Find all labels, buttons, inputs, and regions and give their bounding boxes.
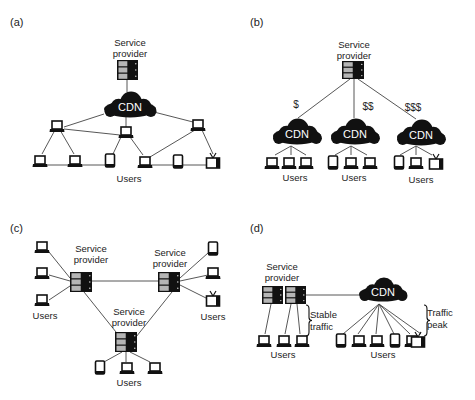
connection-line [180, 285, 208, 299]
tablet-icon [329, 156, 338, 169]
diagram-text: Users [271, 349, 296, 360]
panel-label: (c) [10, 222, 23, 234]
cdn-cloud-icon: CDN [331, 118, 380, 144]
tablet-icon [174, 155, 183, 168]
tablet-icon [106, 154, 115, 167]
diagram-text: provider [74, 254, 108, 265]
connection-line [291, 146, 306, 155]
diagram-text: provider [337, 50, 371, 61]
connection-line [416, 146, 432, 155]
cdn-label: CDN [343, 128, 367, 140]
connection-line [104, 352, 122, 362]
panel-b: CDNCDNCDN(b)Serviceprovider$$$$$$UsersUs… [250, 16, 446, 185]
diagram-text: provider [112, 317, 146, 328]
laptop-icon [35, 242, 50, 253]
laptop-icon [35, 268, 50, 279]
laptop-icon [68, 156, 83, 167]
laptop-icon [363, 158, 378, 169]
diagram-text: peak [427, 319, 448, 330]
diagram-text: traffic [310, 321, 333, 332]
diagram-text: $ [293, 99, 299, 110]
tv-icon [207, 291, 220, 306]
connection-line [113, 137, 121, 154]
server-rack-icon [285, 286, 306, 304]
diagram-text: Service [75, 243, 107, 254]
connection-line [49, 286, 70, 300]
diagram-text: Service [154, 247, 186, 258]
laptop-icon [277, 336, 292, 347]
server-rack-icon [117, 60, 138, 80]
connection-line [298, 79, 350, 118]
diagram-text: Service [113, 306, 145, 317]
laptop-icon [299, 158, 314, 169]
diagram-text: Stable [310, 309, 337, 320]
tv-icon [207, 153, 220, 168]
connection-line [400, 146, 416, 155]
cdn-label: CDN [285, 128, 309, 140]
connection-line [379, 304, 410, 334]
connection-line [335, 146, 351, 155]
connection-line [64, 129, 120, 135]
cdn-architecture-figure: CDN(a)ServiceproviderUsersCDNCDNCDN(b)Se… [0, 0, 475, 400]
connection-line [180, 275, 208, 281]
panel-label: (a) [10, 16, 23, 28]
laptop-icon [352, 336, 367, 347]
panel-a: CDN(a)ServiceproviderUsers [10, 16, 220, 184]
tablet-icon [209, 242, 218, 255]
laptop-icon [138, 157, 153, 168]
cdn-cloud-icon: CDN [104, 91, 157, 117]
connection-line [351, 146, 367, 155]
connection-line [379, 304, 421, 334]
laptop-icon [50, 121, 65, 132]
laptop-icon [148, 363, 163, 374]
diagram-text: Service [266, 261, 298, 272]
tv-icon [430, 154, 443, 169]
laptop-icon [409, 158, 424, 169]
diagram-text: Users [33, 310, 58, 321]
diagram-text: provider [113, 48, 147, 59]
connection-line [285, 304, 291, 334]
laptop-icon [295, 336, 310, 347]
diagram-text: provider [153, 258, 187, 269]
tablet-icon [391, 334, 400, 347]
diagram-text: Service [114, 37, 146, 48]
panel-c: (c)ServiceproviderServiceproviderService… [10, 222, 226, 388]
cdn-cloud-icon: CDN [273, 118, 322, 144]
tablet-icon [395, 156, 404, 169]
connection-line [150, 111, 193, 122]
diagram-text: provider [265, 272, 299, 283]
connection-line [202, 130, 213, 154]
diagram-text: $$ [362, 101, 374, 112]
connection-line [64, 114, 104, 127]
laptop-icon [33, 156, 48, 167]
tablet-icon [96, 361, 105, 374]
server-rack-icon [342, 61, 364, 79]
panel-d: CDN(d)ServiceproviderStabletrafficTraffi… [250, 222, 453, 360]
connection-line [275, 146, 291, 155]
laptop-icon [119, 127, 134, 138]
connection-line [297, 304, 300, 334]
diagram-text: Users [283, 172, 308, 183]
connection-line [358, 79, 416, 119]
diagram-text: Users [117, 173, 142, 184]
connection-line [379, 304, 394, 334]
connection-line [265, 304, 271, 334]
diagram-text: Users [117, 377, 142, 388]
laptop-icon [344, 158, 359, 169]
server-rack-icon [70, 272, 92, 292]
laptop-icon [265, 158, 280, 169]
laptop-icon [35, 295, 50, 306]
connection-line [130, 137, 143, 155]
cdn-label: CDN [371, 286, 395, 298]
cdn-label: CDN [118, 101, 142, 113]
server-rack-icon [115, 332, 137, 352]
figure-canvas: CDN(a)ServiceproviderUsersCDNCDNCDN(b)Se… [0, 0, 475, 400]
laptop-icon [370, 336, 385, 347]
connection-line [130, 352, 150, 362]
connection-line [49, 275, 70, 281]
diagram-text: Users [201, 311, 226, 322]
laptop-icon [120, 363, 135, 374]
diagram-text: $$$ [405, 102, 422, 113]
cdn-cloud-icon: CDN [359, 278, 407, 302]
panel-label: (d) [250, 222, 263, 234]
